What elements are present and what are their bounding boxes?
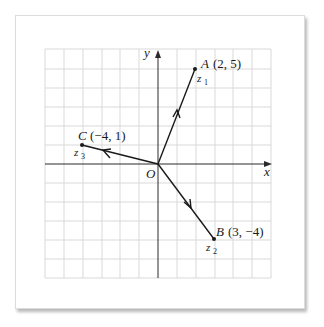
point-a-coords: (2, 5) [213, 56, 241, 71]
y-axis-arrow-icon [155, 50, 161, 58]
point-b-subscript: 2 [213, 247, 217, 256]
point-a [193, 67, 197, 71]
point-b-z: z [205, 241, 211, 253]
arrowhead-oc-icon [103, 149, 111, 158]
y-axis-label: y [142, 45, 150, 60]
complex-plane-diagram: y x O A (2, 5) z 1 B (3, −4) z 2 C (−4, … [0, 0, 324, 327]
point-b-name: B [216, 224, 224, 239]
point-c-coords: (−4, 1) [90, 128, 126, 143]
x-axis-label: x [263, 164, 270, 179]
point-a-name: A [200, 56, 209, 71]
point-a-subscript: 1 [204, 78, 208, 87]
point-c [80, 143, 84, 147]
point-a-z: z [196, 72, 202, 84]
point-c-subscript: 3 [81, 152, 85, 161]
point-c-name: C [78, 128, 87, 143]
point-c-z: z [73, 146, 79, 158]
origin-label: O [146, 166, 156, 181]
point-b-coords: (3, −4) [228, 224, 264, 239]
